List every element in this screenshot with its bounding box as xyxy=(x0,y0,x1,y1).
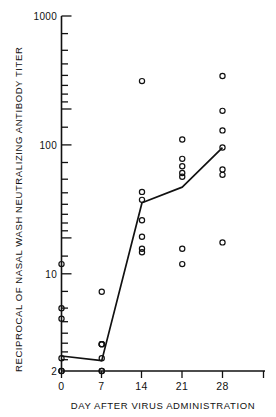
x-tick-label-0: 0 xyxy=(58,380,64,392)
data-point xyxy=(220,73,225,78)
data-point xyxy=(220,240,225,245)
y-tick-marks xyxy=(62,16,72,360)
x-tick-label-14: 14 xyxy=(135,380,148,392)
data-point xyxy=(220,172,225,177)
x-tick-label-7: 7 xyxy=(98,380,104,392)
figure-container: RECIPROCAL OF NASAL WASH NEUTRALIZING AN… xyxy=(0,0,276,417)
data-point xyxy=(180,137,185,142)
data-point xyxy=(99,289,104,294)
data-point-group xyxy=(59,73,225,373)
data-point xyxy=(180,261,185,266)
y-tick-label-100: 100 xyxy=(39,140,57,151)
x-tick-label-28: 28 xyxy=(216,380,229,392)
y-tick-label-1000: 1000 xyxy=(34,11,58,22)
data-point xyxy=(139,234,144,239)
data-point xyxy=(139,197,144,202)
y-tick-labels: 1000 100 10 2 xyxy=(34,11,58,377)
scatter-plot-svg: RECIPROCAL OF NASAL WASH NEUTRALIZING AN… xyxy=(0,0,276,417)
data-point xyxy=(180,174,185,179)
x-axis-title: DAY AFTER VIRUS ADMINISTRATION xyxy=(71,400,255,411)
y-tick-label-10: 10 xyxy=(45,269,57,280)
data-point xyxy=(180,164,185,169)
data-point xyxy=(180,246,185,251)
data-point xyxy=(139,250,144,255)
x-tick-labels: 0 7 14 21 28 xyxy=(58,380,229,392)
data-point xyxy=(220,108,225,113)
data-point xyxy=(139,189,144,194)
data-point xyxy=(139,78,144,83)
data-point xyxy=(220,167,225,172)
x-tick-label-21: 21 xyxy=(176,380,189,392)
y-axis-title: RECIPROCAL OF NASAL WASH NEUTRALIZING AN… xyxy=(13,47,24,372)
data-point xyxy=(139,218,144,223)
geometric-mean-line xyxy=(62,148,223,361)
data-point xyxy=(180,156,185,161)
data-point xyxy=(220,128,225,133)
x-tick-marks xyxy=(62,371,264,378)
data-point xyxy=(99,342,104,347)
y-tick-label-2: 2 xyxy=(51,366,57,377)
